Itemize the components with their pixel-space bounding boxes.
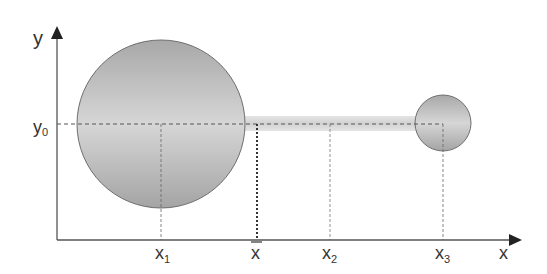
y-axis-arrow-icon [51,26,63,39]
x-axis-label: x [499,243,508,263]
x3-label: x3 [435,243,450,265]
y-axis-label: y [33,27,43,49]
y0-label: y0 [33,117,48,138]
xbar-label: x [251,242,262,263]
x2-label: x2 [322,243,337,265]
center-of-mass-diagram: y y0 x1 x x2 x3 x [0,0,547,274]
small-sphere [415,95,471,151]
svg-text:x: x [251,243,260,263]
x1-label: x1 [155,243,170,265]
x-axis-arrow-icon [509,234,522,246]
